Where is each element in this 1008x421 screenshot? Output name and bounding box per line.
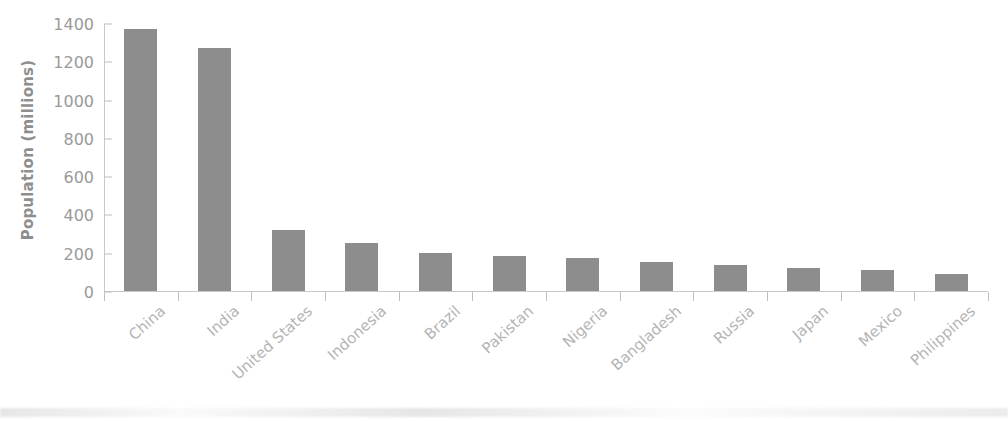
- x-tick-mark: [988, 292, 989, 301]
- x-tick-mark: [178, 292, 179, 301]
- y-tick-label: 600: [63, 168, 94, 187]
- y-tick-label: 400: [63, 206, 94, 225]
- x-tick-label: China: [125, 302, 169, 344]
- y-tick-mark: [104, 100, 112, 101]
- x-tick-mark: [693, 292, 694, 301]
- x-tick-mark: [546, 292, 547, 301]
- x-tick-label: Russia: [710, 302, 758, 348]
- y-tick-mark: [104, 215, 112, 216]
- x-tick-label: Mexico: [855, 302, 906, 350]
- x-tick-mark: [251, 292, 252, 301]
- x-tick-label: Brazil: [420, 302, 463, 343]
- x-axis-labels: ChinaIndiaUnited StatesIndonesiaBrazilPa…: [104, 302, 988, 407]
- y-axis-title-text: Population (millions): [19, 60, 37, 241]
- x-tick-mark: [104, 292, 105, 301]
- bar: [345, 243, 378, 291]
- x-tick-label: Philippines: [907, 302, 979, 369]
- x-tick-mark: [325, 292, 326, 301]
- x-tick-label: Nigeria: [559, 302, 611, 351]
- plot-area: 0200400600800100012001400: [104, 24, 988, 292]
- bar: [935, 274, 968, 291]
- y-tick-mark: [104, 292, 112, 293]
- y-tick-mark: [104, 138, 112, 139]
- x-tick-mark: [841, 292, 842, 301]
- x-tick-mark: [767, 292, 768, 301]
- y-tick-mark: [104, 253, 112, 254]
- y-tick-mark: [104, 177, 112, 178]
- bar: [787, 268, 820, 291]
- bar: [198, 48, 231, 291]
- x-tick-mark: [914, 292, 915, 301]
- y-tick-label: 0: [84, 283, 94, 302]
- scan-artifact: [0, 408, 1008, 417]
- x-tick-label: Indonesia: [324, 302, 390, 364]
- y-tick-label: 800: [63, 129, 94, 148]
- bar: [124, 29, 157, 291]
- x-tick-label: India: [203, 302, 242, 340]
- bar-chart-figure: Population (millions) 020040060080010001…: [0, 0, 1008, 421]
- bar: [493, 256, 526, 291]
- bar: [272, 230, 305, 291]
- bar: [419, 253, 452, 291]
- y-tick-label: 1000: [53, 91, 94, 110]
- x-tick-label: Bangladesh: [607, 302, 684, 374]
- bar: [861, 270, 894, 291]
- x-tick-label: Japan: [789, 302, 832, 343]
- y-tick-label: 1200: [53, 53, 94, 72]
- y-tick-mark: [104, 24, 112, 25]
- bar: [566, 258, 599, 292]
- x-tick-mark: [620, 292, 621, 301]
- bar: [640, 262, 673, 291]
- y-tick-label: 200: [63, 244, 94, 263]
- y-axis-line: [104, 24, 105, 292]
- y-axis-title: Population (millions): [8, 0, 48, 300]
- x-tick-label: Pakistan: [478, 302, 537, 357]
- x-tick-mark: [399, 292, 400, 301]
- bar: [714, 265, 747, 291]
- y-tick-label: 1400: [53, 15, 94, 34]
- y-tick-mark: [104, 62, 112, 63]
- x-tick-mark: [472, 292, 473, 301]
